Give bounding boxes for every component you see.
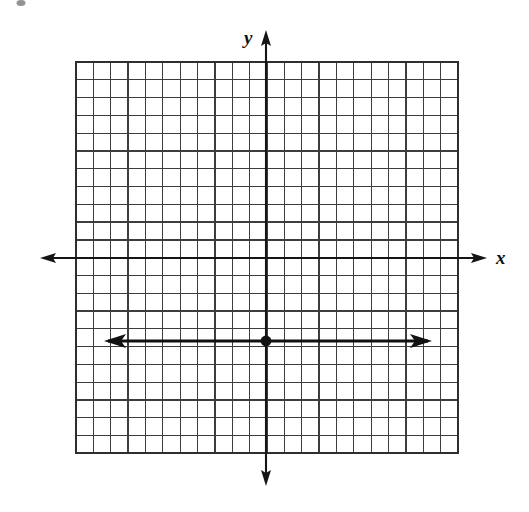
plotted-point-dot (261, 336, 272, 347)
x-axis-label: x (496, 248, 506, 267)
y-axis-label: y (244, 28, 252, 47)
coordinate-graph-figure: y x (0, 0, 529, 512)
scan-speck-artifact (17, 0, 26, 6)
graph-canvas (0, 0, 529, 512)
graphed-line-y-equals-negative-5 (104, 334, 432, 348)
x-axis (40, 253, 487, 263)
